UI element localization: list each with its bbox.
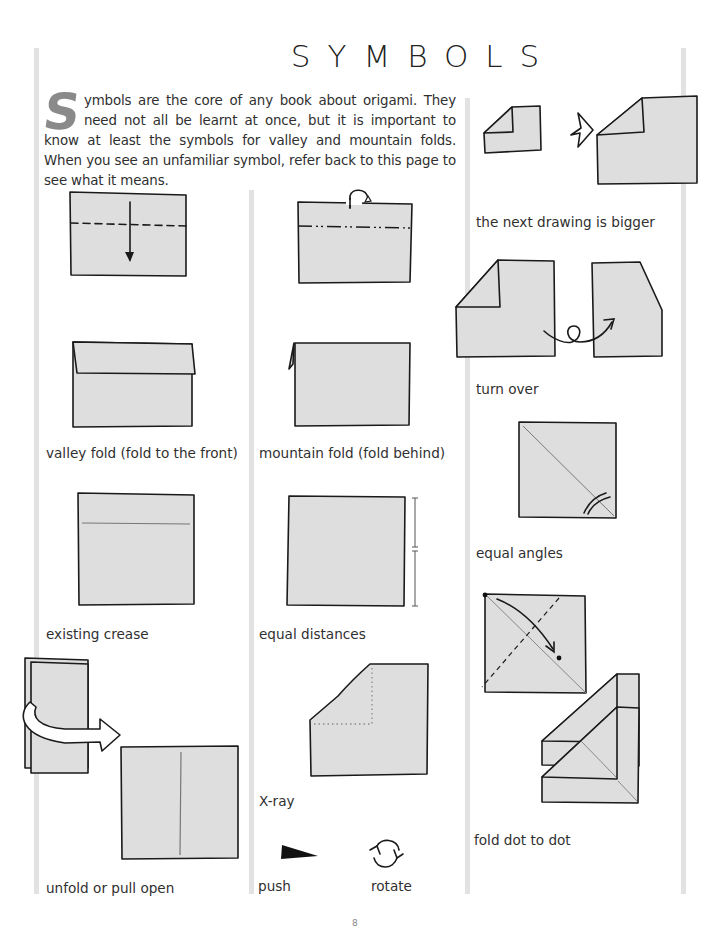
- rotate-circle-arrows-icon[interactable]: [367, 836, 407, 872]
- valley-fold-diagram-icon: [68, 190, 188, 280]
- page-number: 8: [352, 918, 358, 928]
- middle-column-rule: [249, 190, 254, 894]
- dot-to-dot-diagram-icon: [480, 590, 592, 702]
- caption-push: push: [258, 878, 291, 894]
- caption-unfold: unfold or pull open: [46, 880, 174, 896]
- page-title: SYMBOLS: [0, 38, 727, 74]
- existing-crease-diagram-icon: [76, 491, 198, 607]
- dot-to-dot-result-shape-icon: [540, 705, 644, 805]
- caption-valley-fold: valley fold (fold to the front): [46, 445, 238, 461]
- bigger-star-arrow-diagram-icon: [482, 95, 702, 200]
- drop-cap: S: [41, 93, 82, 131]
- x-ray-diagram-icon: [308, 662, 433, 780]
- equal-distances-diagram-icon: [286, 493, 436, 611]
- caption-dot-to-dot: fold dot to dot: [474, 832, 571, 848]
- valley-fold-result-icon: [70, 340, 200, 430]
- mountain-fold-diagram-icon: [294, 190, 424, 285]
- caption-turn-over: turn over: [476, 381, 539, 397]
- caption-existing-crease: existing crease: [46, 626, 149, 642]
- caption-bigger: the next drawing is bigger: [476, 214, 655, 230]
- mountain-fold-result-icon: [288, 341, 418, 433]
- caption-rotate: rotate: [371, 878, 412, 894]
- caption-equal-angles: equal angles: [476, 545, 563, 561]
- caption-x-ray: X-ray: [259, 793, 295, 809]
- equal-angles-diagram-icon: [518, 420, 620, 520]
- intro-text: ymbols are the core of any book about or…: [44, 93, 456, 188]
- caption-mountain-fold: mountain fold (fold behind): [259, 445, 445, 461]
- caption-equal-distances: equal distances: [259, 626, 366, 642]
- right-column-rule: [465, 98, 470, 894]
- push-arrowhead-icon[interactable]: [280, 843, 320, 863]
- turn-over-loop-arrow-diagram-icon: [454, 258, 664, 360]
- unfold-arrow-diagram-icon: [20, 655, 245, 865]
- intro-paragraph: Symbols are the core of any book about o…: [44, 91, 456, 191]
